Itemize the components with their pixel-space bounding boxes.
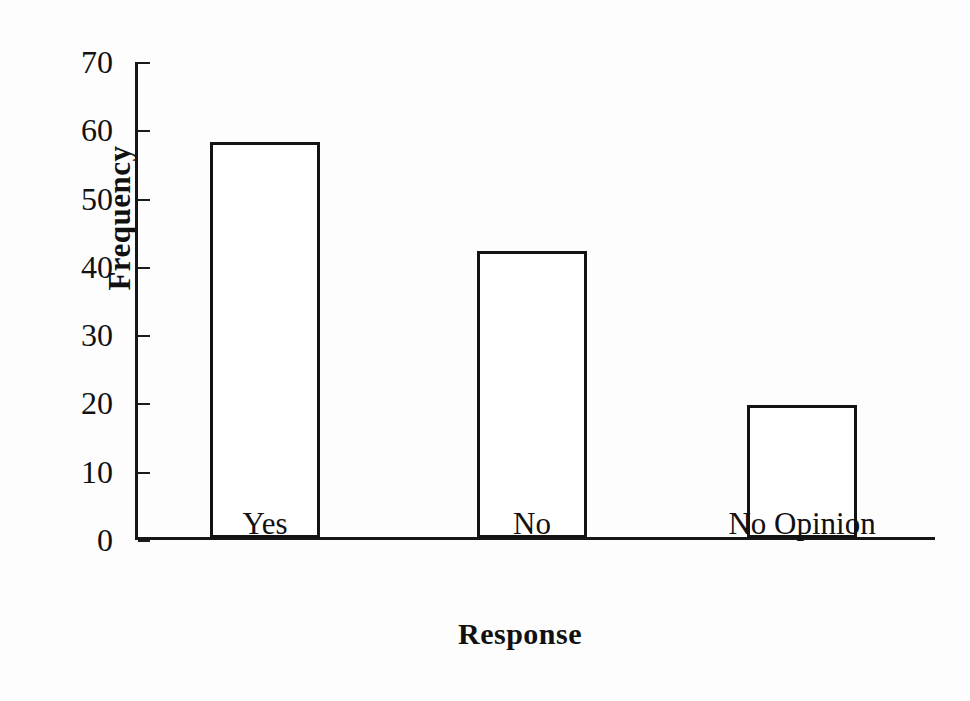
- bar-chart: Frequency 010203040506070 YesNoNo Opinio…: [0, 0, 970, 701]
- y-axis-tick-label: 0: [97, 524, 113, 556]
- x-axis-tick-label: No: [382, 508, 682, 539]
- bar: [210, 142, 320, 538]
- y-axis-tick-label: 60: [81, 114, 113, 146]
- y-axis-tick-label: 70: [81, 46, 113, 78]
- y-axis-tick-label: 20: [81, 387, 113, 419]
- y-axis-tick-mark: [138, 267, 150, 269]
- y-axis-tick-mark: [138, 130, 150, 132]
- y-axis-tick-mark: [138, 403, 150, 405]
- y-axis-tick-label: 40: [81, 251, 113, 283]
- y-axis-tick-mark: [138, 335, 150, 337]
- y-axis-tick-label: 50: [81, 183, 113, 215]
- bar: [477, 251, 587, 538]
- x-axis-title: Response: [330, 617, 710, 651]
- y-axis-tick-label: 10: [81, 456, 113, 488]
- y-axis-tick-mark: [138, 199, 150, 201]
- y-axis-tick-mark: [138, 62, 150, 64]
- y-axis-tick-mark: [138, 540, 150, 542]
- y-axis-tick-mark: [138, 472, 150, 474]
- y-axis-line: [135, 62, 138, 540]
- y-axis-tick-label: 30: [81, 319, 113, 351]
- x-axis-tick-label: Yes: [115, 508, 415, 539]
- x-axis-tick-label: No Opinion: [652, 508, 952, 539]
- plot-area: 010203040506070: [135, 62, 935, 540]
